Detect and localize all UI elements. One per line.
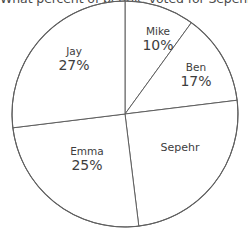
pie-label-jay: Jay 27% (44, 46, 104, 73)
pie-chart: What percent of people voted for Sepehr?… (0, 0, 248, 232)
pie-label-ben: Ben 17% (168, 62, 224, 89)
pie-label-emma: Emma 25% (54, 146, 120, 173)
pie-chart-graphic (0, 0, 248, 232)
pie-slice-sepehr[interactable] (125, 100, 238, 226)
pie-label-jay-value: 27% (44, 58, 104, 73)
pie-label-emma-name: Emma (54, 146, 120, 157)
pie-label-emma-value: 25% (54, 158, 120, 173)
pie-label-ben-value: 17% (168, 74, 224, 89)
pie-label-mike-name: Mike (128, 26, 188, 37)
pie-label-ben-name: Ben (168, 62, 224, 73)
pie-label-mike: Mike 10% (128, 26, 188, 53)
pie-label-jay-name: Jay (44, 46, 104, 57)
pie-label-mike-value: 10% (128, 38, 188, 53)
pie-label-sepehr: Sepehr (144, 142, 216, 154)
pie-label-sepehr-name: Sepehr (144, 142, 216, 154)
